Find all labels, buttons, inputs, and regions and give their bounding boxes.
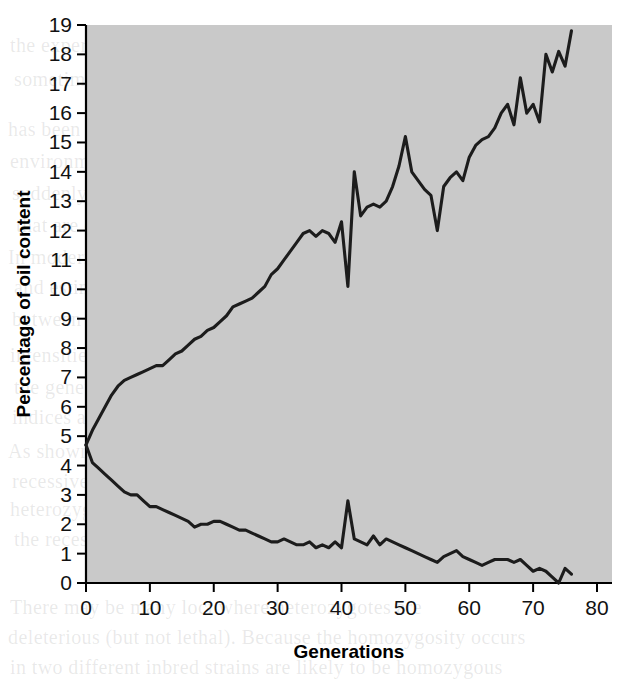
y-tick-label: 0 xyxy=(60,571,72,594)
y-tick-label: 19 xyxy=(49,13,72,36)
y-tick-label: 8 xyxy=(60,336,72,359)
y-tick-label: 17 xyxy=(49,72,72,95)
y-tick-label: 10 xyxy=(49,277,72,300)
x-tick-label: 40 xyxy=(330,596,353,619)
x-tick-label: 60 xyxy=(458,596,481,619)
y-axis-title: Percentage of oil content xyxy=(13,190,34,418)
y-tick-label: 12 xyxy=(49,219,72,242)
series-line-high-oil xyxy=(86,31,571,445)
x-axis-title: Generations xyxy=(294,641,405,662)
y-tick-label: 1 xyxy=(60,542,72,565)
x-tick-label: 70 xyxy=(521,596,544,619)
series-line-low-oil xyxy=(86,445,571,583)
y-tick-label: 14 xyxy=(49,160,73,183)
y-tick-label: 13 xyxy=(49,189,72,212)
y-tick-label: 9 xyxy=(60,307,72,330)
y-tick-label: 18 xyxy=(49,42,72,65)
x-tick-label: 80 xyxy=(585,596,608,619)
y-tick-label: 4 xyxy=(60,454,72,477)
y-axis-ticks: 012345678910111213141516171819 xyxy=(49,13,86,594)
y-tick-label: 2 xyxy=(60,512,72,535)
x-tick-label: 50 xyxy=(394,596,417,619)
y-tick-label: 16 xyxy=(49,101,72,124)
x-tick-label: 0 xyxy=(80,596,92,619)
y-tick-label: 7 xyxy=(60,365,72,388)
x-tick-label: 10 xyxy=(138,596,161,619)
y-tick-label: 11 xyxy=(50,248,72,271)
y-tick-label: 3 xyxy=(60,483,72,506)
x-tick-label: 30 xyxy=(266,596,289,619)
x-axis-ticks: 01020304050607080 xyxy=(80,583,609,619)
y-tick-label: 5 xyxy=(60,424,72,447)
y-tick-label: 6 xyxy=(60,395,72,418)
x-tick-label: 20 xyxy=(202,596,225,619)
y-tick-label: 15 xyxy=(49,130,72,153)
